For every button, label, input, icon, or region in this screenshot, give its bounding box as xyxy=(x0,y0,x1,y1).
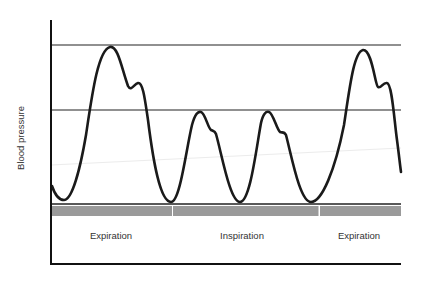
blood-pressure-curve xyxy=(52,47,401,202)
y-axis-label: Blood pressure xyxy=(15,106,26,170)
phase-band-inspiration xyxy=(173,206,319,216)
faint-guide-line xyxy=(51,148,401,165)
phase-band-expiration-2 xyxy=(320,206,401,216)
phase-label-expiration-2: Expiration xyxy=(338,230,380,241)
phase-label-inspiration: Inspiration xyxy=(220,230,264,241)
phase-label-expiration-1: Expiration xyxy=(90,230,132,241)
phase-band-expiration-1 xyxy=(51,206,172,216)
